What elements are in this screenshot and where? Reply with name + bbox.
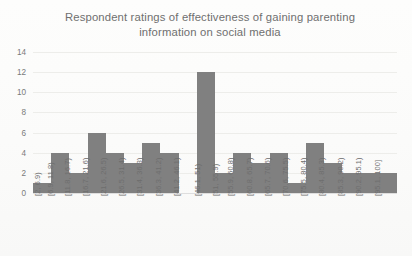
x-axis-tick-label: [75.5, 80.4) <box>299 157 308 196</box>
x-axis: [2, 6.9)[6.9, 11.8)[11.8, 16.7)[16.7, 21… <box>33 194 397 254</box>
x-axis-tick-label: [60.8, 65.7) <box>244 157 253 196</box>
x-axis-tick-label: [85.3, 90.2) <box>335 157 344 196</box>
x-axis-tick-label: [21.6, 26.5) <box>99 157 108 196</box>
x-tick-slot: [60.8, 65.7) <box>251 194 269 254</box>
chart-page: Respondent ratings of effectiveness of g… <box>0 0 412 256</box>
x-tick-slot: [65.7, 70.6) <box>270 194 288 254</box>
x-tick-slot: [11.8, 16.7) <box>69 194 87 254</box>
x-tick-slot: [21.6, 26.5) <box>106 194 124 254</box>
x-tick-slot: [95.1, 100] <box>379 194 397 254</box>
x-axis-tick-label: [95.1, 100] <box>373 160 382 196</box>
x-axis-tick-label: [90.2, 95.1) <box>354 157 363 196</box>
x-axis-tick-label: [36.3, 41.2) <box>153 157 162 196</box>
x-axis-tick-label: [16.7, 21.6) <box>81 157 90 196</box>
x-axis-tick-label: [65.7, 70.6) <box>263 157 272 196</box>
x-axis-tick-label: [55.9, 60.8) <box>226 157 235 196</box>
x-tick-slot: [36.3, 41.2) <box>160 194 178 254</box>
x-tick-slot: [31.4, 36.3) <box>142 194 160 254</box>
y-axis-tick-label: 6 <box>21 128 26 137</box>
y-axis-tick-label: 2 <box>21 168 26 177</box>
x-axis-tick-label: [11.8, 16.7) <box>63 158 72 196</box>
x-tick-slot: [2, 6.9) <box>33 194 51 254</box>
x-axis-tick-label: [70.6, 75.5) <box>281 157 290 196</box>
x-tick-slot: [90.2, 95.1) <box>361 194 379 254</box>
x-axis-tick-label: [6.9, 11.8) <box>47 162 56 196</box>
x-axis-tick-label: [26.5, 31.4) <box>117 157 126 196</box>
x-axis-tick-label: [41.2, 46.1) <box>172 157 181 196</box>
x-axis-tick-label: [80.4, 85.3) <box>317 157 326 196</box>
x-axis-tick-label: [2, 6.9) <box>33 172 42 196</box>
x-tick-slot: [46.1, 51) <box>197 194 215 254</box>
chart-title-line-1: Respondent ratings of effectiveness of g… <box>40 10 380 25</box>
x-tick-slot: [26.5, 31.4) <box>124 194 142 254</box>
y-axis: 02468101214 <box>0 52 30 193</box>
y-axis-tick-label: 4 <box>21 148 26 157</box>
x-tick-slot: [51, 55.9) <box>215 194 233 254</box>
x-tick-slot: [80.4, 85.3) <box>324 194 342 254</box>
chart-title-line-2: information on social media <box>40 25 380 40</box>
x-axis-tick-label: [31.4, 36.3) <box>135 157 144 196</box>
y-axis-tick-label: 10 <box>17 88 26 97</box>
y-axis-tick-label: 14 <box>17 48 26 57</box>
y-axis-tick-label: 8 <box>21 108 26 117</box>
y-axis-tick-label: 12 <box>17 68 26 77</box>
x-axis-tick-label: [46.1, 51) <box>193 164 202 196</box>
x-tick-slot: [41.2, 46.1) <box>179 194 197 254</box>
x-tick-slot: [75.5, 80.4) <box>306 194 324 254</box>
x-tick-slot: [85.3, 90.2) <box>342 194 360 254</box>
x-tick-slot: [55.9, 60.8) <box>233 194 251 254</box>
y-axis-tick-label: 0 <box>21 189 26 198</box>
x-tick-slot: [16.7, 21.6) <box>88 194 106 254</box>
x-axis-tick-label: [51, 55.9) <box>211 164 220 196</box>
x-tick-slot: [70.6, 75.5) <box>288 194 306 254</box>
chart-title: Respondent ratings of effectiveness of g… <box>40 10 380 40</box>
x-tick-slot: [6.9, 11.8) <box>51 194 69 254</box>
